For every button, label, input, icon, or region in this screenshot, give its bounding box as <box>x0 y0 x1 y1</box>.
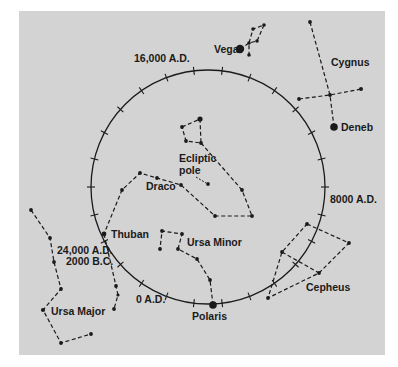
circle-tick <box>193 299 194 307</box>
draco-label: Draco <box>146 180 176 192</box>
thuban-label: Thuban <box>111 228 149 240</box>
cygnus-label: Cygnus <box>331 56 370 68</box>
deneb-star-icon <box>330 123 338 131</box>
constellation-ursa-major: Ursa Major <box>29 208 105 345</box>
circle-tick <box>222 67 223 75</box>
polaris-label: Polaris <box>192 310 227 322</box>
date-label-0ad: 0 A.D. <box>136 293 165 305</box>
constellation-cygnus: Cygnus Deneb <box>297 20 373 133</box>
circle-tick <box>272 87 277 94</box>
ecliptic-label-line1: Ecliptic <box>179 152 217 164</box>
precession-circle-ticks <box>87 67 329 307</box>
precession-diagram: Vega Cygnus Deneb Draco Thuban Ecli <box>0 0 398 367</box>
draco-body <box>104 143 252 234</box>
precession-circle <box>91 70 325 304</box>
ursa-minor-label: Ursa Minor <box>187 236 242 248</box>
draco-head <box>182 119 201 143</box>
ecliptic-label-line2: pole <box>179 164 201 176</box>
circle-tick <box>139 280 144 287</box>
constellation-ursa-minor: Ursa Minor Polaris <box>158 229 242 322</box>
circle-tick <box>139 87 144 94</box>
deneb-label: Deneb <box>341 121 373 133</box>
constellation-lyra: Vega <box>214 23 266 57</box>
polaris-star-icon <box>209 301 217 309</box>
ursa-major-lines <box>31 210 91 343</box>
circle-tick <box>193 67 194 75</box>
ursa-major-label: Ursa Major <box>51 305 105 317</box>
date-label-8000ad: 8000 A.D. <box>330 193 377 205</box>
circle-tick <box>222 299 223 307</box>
cygnus-long-axis <box>310 22 334 127</box>
constellation-cepheus: Cepheus <box>266 222 351 300</box>
constellation-draco: Draco Thuban <box>102 116 254 240</box>
vega-label: Vega <box>214 43 239 55</box>
ecliptic-pole-dot-icon <box>206 182 210 186</box>
date-label-16000ad: 16,000 A.D. <box>134 52 190 64</box>
date-label-2000bc: 2000 B.C. <box>66 255 113 267</box>
cepheus-label: Cepheus <box>306 281 351 293</box>
ecliptic-pole: Ecliptic pole <box>179 152 217 186</box>
